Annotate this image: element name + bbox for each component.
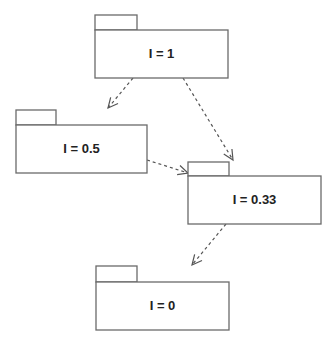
- package-label: I = 0: [150, 298, 176, 313]
- package-tab: [95, 15, 137, 30]
- dependency-arrow: [192, 224, 226, 265]
- open-arrowhead-icon: [177, 165, 188, 174]
- packages: I = 1 I = 0.5 I = 0.33 I = 0: [16, 15, 321, 330]
- dependency-arrow: [147, 160, 188, 175]
- dependency-line: [183, 78, 233, 160]
- dependency-arrow: [108, 78, 133, 108]
- package-label: I = 0.33: [233, 192, 277, 207]
- package-tab: [188, 162, 229, 176]
- dependency-line: [108, 78, 133, 108]
- package-i-0-5: I = 0.5: [16, 110, 147, 173]
- open-arrowhead-icon: [192, 254, 202, 265]
- package-dependency-diagram: I = 1 I = 0.5 I = 0.33 I = 0: [0, 0, 335, 347]
- package-i-0-33: I = 0.33: [188, 162, 321, 224]
- open-arrowhead-icon: [224, 149, 233, 160]
- package-label: I = 0.5: [63, 141, 100, 156]
- package-i-1: I = 1: [95, 15, 228, 78]
- package-tab: [16, 110, 56, 125]
- dependency-arrow: [183, 78, 233, 160]
- dependency-line: [192, 224, 226, 265]
- package-tab: [96, 266, 137, 282]
- package-label: I = 1: [149, 46, 175, 61]
- package-i-0: I = 0: [96, 266, 229, 330]
